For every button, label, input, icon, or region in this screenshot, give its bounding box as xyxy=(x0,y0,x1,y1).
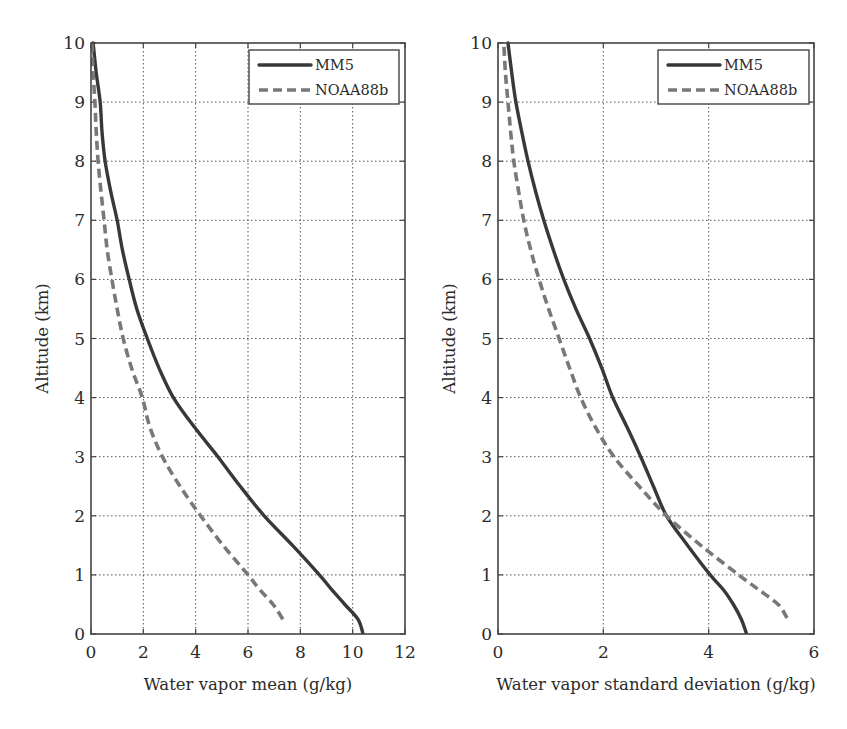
y-tick-label: 10 xyxy=(470,33,492,53)
y-tick-label: 1 xyxy=(74,565,85,585)
y-tick-label: 2 xyxy=(481,506,492,526)
y-tick-label: 8 xyxy=(74,151,85,171)
series-noaa88b xyxy=(92,43,283,619)
y-tick-label: 9 xyxy=(74,92,85,112)
x-tick-label: 4 xyxy=(190,642,201,662)
tick-labels: 0246012345678910 xyxy=(470,33,819,662)
legend: MM5NOAA88b xyxy=(658,50,809,104)
y-tick-label: 4 xyxy=(74,388,85,408)
series-noaa88b xyxy=(504,43,787,618)
x-tick-label: 2 xyxy=(598,642,609,662)
y-tick-label: 4 xyxy=(481,388,492,408)
x-tick-label: 0 xyxy=(493,642,504,662)
x-axis-label: Water vapor mean (g/kg) xyxy=(144,675,352,694)
grid-lines xyxy=(91,43,405,634)
y-tick-label: 10 xyxy=(63,33,85,53)
x-tick-label: 2 xyxy=(138,642,149,662)
y-tick-label: 3 xyxy=(74,447,85,467)
figure: 024681012012345678910Water vapor mean (g… xyxy=(0,0,847,729)
x-tick-label: 4 xyxy=(703,642,714,662)
y-tick-label: 7 xyxy=(74,210,85,230)
y-tick-label: 6 xyxy=(74,269,85,289)
y-tick-label: 7 xyxy=(481,210,492,230)
legend-label-noaa88b: NOAA88b xyxy=(724,82,797,98)
x-tick-label: 8 xyxy=(295,642,306,662)
y-tick-label: 6 xyxy=(481,269,492,289)
x-axis-label: Water vapor standard deviation (g/kg) xyxy=(496,675,815,694)
y-tick-label: 3 xyxy=(481,447,492,467)
legend: MM5NOAA88b xyxy=(249,50,399,104)
x-tick-label: 12 xyxy=(394,642,416,662)
figure-canvas: 024681012012345678910Water vapor mean (g… xyxy=(0,0,847,729)
x-tick-label: 6 xyxy=(243,642,254,662)
y-tick-label: 9 xyxy=(481,92,492,112)
x-tick-label: 6 xyxy=(809,642,820,662)
y-tick-label: 0 xyxy=(74,624,85,644)
panel-water-vapor-mean: 024681012012345678910Water vapor mean (g… xyxy=(33,33,416,694)
legend-label-noaa88b: NOAA88b xyxy=(315,82,388,98)
legend-label-mm5: MM5 xyxy=(724,57,763,73)
tick-labels: 024681012012345678910 xyxy=(63,33,415,662)
y-tick-label: 8 xyxy=(481,151,492,171)
y-tick-label: 2 xyxy=(74,506,85,526)
y-tick-label: 5 xyxy=(481,329,492,349)
grid-lines xyxy=(498,43,814,634)
legend-label-mm5: MM5 xyxy=(315,57,354,73)
y-tick-label: 0 xyxy=(481,624,492,644)
x-tick-label: 10 xyxy=(342,642,364,662)
y-tick-label: 1 xyxy=(481,565,492,585)
y-axis-label: Altitude (km) xyxy=(440,283,459,394)
y-tick-label: 5 xyxy=(74,329,85,349)
x-tick-label: 0 xyxy=(86,642,97,662)
y-axis-label: Altitude (km) xyxy=(33,283,52,394)
panel-water-vapor-std: 0246012345678910Water vapor standard dev… xyxy=(440,33,819,694)
